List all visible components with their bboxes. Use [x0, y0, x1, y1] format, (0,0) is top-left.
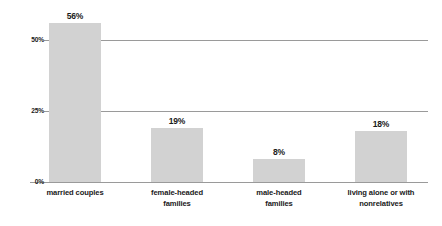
- bar-value-living-alone-or-with-nonrelatives: 18%: [351, 119, 411, 129]
- bar-male-headed-families: [253, 159, 305, 182]
- x-axis-label-married-couples: married couples: [23, 187, 127, 198]
- x-axis-label-line: families: [125, 198, 229, 209]
- x-axis-label-male-headed-families: male-headed families: [227, 187, 331, 209]
- x-axis-label-line: male-headed: [227, 187, 331, 198]
- x-axis-label-line: married couples: [23, 187, 127, 198]
- x-axis-label-line: families: [227, 198, 331, 209]
- bar-living-alone-or-with-nonrelatives: [355, 131, 407, 182]
- bar-chart: 50% 25% 0% 56% 19% 8% 18% married couple…: [0, 0, 442, 226]
- bar-female-headed-families: [151, 128, 203, 182]
- bar-value-married-couples: 56%: [45, 11, 105, 21]
- bar-value-male-headed-families: 8%: [249, 147, 309, 157]
- bar-value-female-headed-families: 19%: [147, 116, 207, 126]
- x-axis-label-living-alone-or-with-nonrelatives: living alone or with nonrelatives: [329, 187, 433, 209]
- x-axis-label-line: nonrelatives: [329, 198, 433, 209]
- x-axis-label-line: female-headed: [125, 187, 229, 198]
- bar-married-couples: [49, 23, 101, 182]
- x-axis-label-line: living alone or with: [329, 187, 433, 198]
- x-axis-label-female-headed-families: female-headed families: [125, 187, 229, 209]
